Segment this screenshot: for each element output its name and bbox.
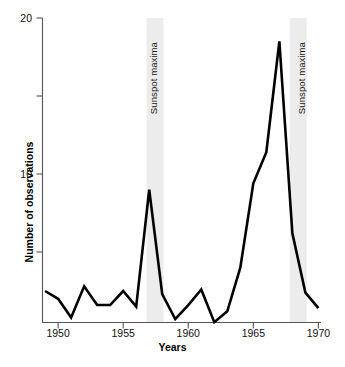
y-tick-label-10: 10	[6, 168, 32, 180]
y-tick-label-20: 20	[6, 12, 32, 24]
axis-lines	[43, 18, 322, 323]
sunspot-maxima-label-2: Sunspot maxima	[296, 42, 307, 114]
x-tick-label-1960: 1960	[177, 327, 200, 339]
chart-figure: Sunspot maxima Sunspot maxima Years Numb…	[0, 0, 345, 367]
observations-line	[45, 41, 318, 322]
sunspot-maxima-bands	[147, 18, 307, 323]
x-tick-label-1950: 1950	[46, 327, 69, 339]
sunspot-maxima-label-1: Sunspot maxima	[148, 42, 159, 114]
x-axis-title: Years	[0, 341, 345, 353]
x-tick-label-1955: 1955	[111, 327, 134, 339]
chart-plot-area	[0, 0, 345, 367]
y-axis-ticks	[37, 18, 43, 252]
x-tick-label-1970: 1970	[307, 327, 330, 339]
x-tick-label-1965: 1965	[242, 327, 265, 339]
y-axis-title: Number of observations	[23, 117, 35, 287]
